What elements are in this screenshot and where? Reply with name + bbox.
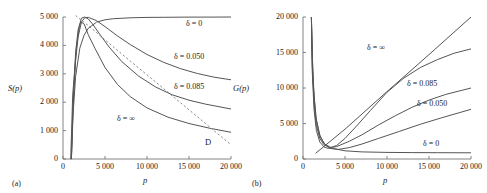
panel-a-y-axis-title: S(p) (8, 84, 22, 93)
panel-b-axes (303, 17, 471, 159)
panel-b-label-delta-0: δ = 0 (423, 140, 439, 148)
panel-a-label-delta-inf: δ = ∞ (117, 115, 135, 123)
panel-a-label-delta-0050: δ = 0.050 (174, 53, 204, 61)
panel-b-label-delta-inf: δ = ∞ (367, 44, 385, 52)
panel-a-xtick-15000: 15 000 (167, 163, 211, 171)
panel-a-ytick-3000: 3 000 (20, 70, 58, 78)
curve-b-delta-0050 (311, 17, 471, 149)
panel-a: 0 1 000 2 000 3 000 4 000 5 000 0 5 000 … (0, 0, 240, 193)
panel-a-tag: (a) (12, 180, 21, 188)
panel-a-xtick-10000: 10 000 (125, 163, 169, 171)
panel-a-label-delta-0: δ = 0 (186, 20, 202, 28)
panel-a-ytick-1000: 1 000 (20, 127, 58, 135)
panel-b-xtick-5000: 5 000 (325, 163, 365, 171)
panel-a-xtick-0: 0 (53, 163, 73, 171)
panel-a-label-D: D (205, 138, 211, 147)
curve-b-delta-inf (311, 17, 471, 148)
panel-b-curves (311, 17, 471, 153)
curve-b-delta-0085 (311, 17, 471, 148)
panel-b-ytick-5000: 5 000 (258, 120, 298, 128)
panel-a-x-axis-title: p (143, 176, 147, 185)
panel-a-ytick-0: 0 (26, 155, 58, 163)
curve-D-dashed (76, 16, 231, 145)
panel-b-tag: (b) (252, 180, 261, 188)
panel-b-xtick-0: 0 (293, 163, 313, 171)
panel-a-ytick-5000: 5 000 (20, 13, 58, 21)
panel-b-ytick-0: 0 (266, 155, 298, 163)
panel-b: 0 5 000 10 000 15 000 20 000 0 5 000 10 … (240, 0, 480, 193)
panel-b-label-delta-0085: δ = 0.085 (407, 80, 437, 88)
panel-b-ytick-15000: 15 000 (254, 49, 298, 57)
panel-a-xtick-5000: 5 000 (85, 163, 125, 171)
curve-b-delta-0 (311, 17, 471, 153)
panel-b-x-axis-title: p (383, 176, 387, 185)
panel-b-xtick-20000: 20 000 (449, 163, 487, 171)
panel-a-label-delta-0085: δ = 0.085 (174, 83, 204, 91)
curve-b-diagonal (316, 17, 471, 153)
panel-b-ytick-10000: 10 000 (254, 84, 298, 92)
panel-a-ytick-2000: 2 000 (20, 98, 58, 106)
panel-b-y-axis-title: G(p) (233, 84, 249, 93)
panel-b-xtick-10000: 10 000 (365, 163, 409, 171)
panel-a-ytick-4000: 4 000 (20, 41, 58, 49)
panel-b-label-delta-0050: δ = 0.050 (417, 100, 447, 108)
panel-b-xtick-15000: 15 000 (407, 163, 451, 171)
panel-b-ytick-20000: 20 000 (254, 13, 298, 21)
